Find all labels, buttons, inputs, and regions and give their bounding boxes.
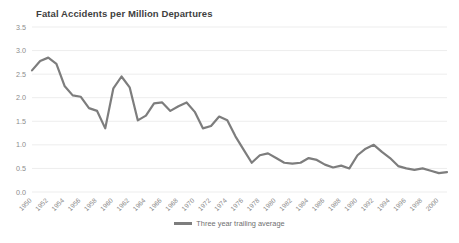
svg-text:1990: 1990 [343, 197, 359, 213]
svg-text:0.5: 0.5 [16, 164, 26, 173]
legend-swatch-icon [174, 222, 192, 225]
svg-text:1952: 1952 [34, 197, 50, 213]
svg-text:1962: 1962 [115, 197, 131, 213]
svg-text:1964: 1964 [131, 197, 147, 213]
x-axis-tick-labels: 1950195219541956195819601962196419661968… [17, 197, 439, 213]
svg-text:1966: 1966 [148, 197, 164, 213]
svg-text:3.0: 3.0 [16, 46, 26, 55]
chart-container: Fatal Accidents per Million Departures 0… [0, 0, 459, 243]
y-axis-tick-labels: 0.00.51.01.52.02.53.03.5 [16, 23, 26, 197]
svg-text:1998: 1998 [408, 197, 424, 213]
svg-text:2.0: 2.0 [16, 93, 26, 102]
svg-text:2000: 2000 [424, 197, 440, 213]
svg-text:1958: 1958 [82, 197, 98, 213]
svg-text:1978: 1978 [245, 197, 261, 213]
svg-text:1974: 1974 [213, 197, 229, 213]
svg-text:1994: 1994 [375, 197, 391, 213]
svg-text:0.0: 0.0 [16, 188, 26, 197]
svg-text:1976: 1976 [229, 197, 245, 213]
svg-text:1954: 1954 [50, 197, 66, 213]
svg-text:1986: 1986 [310, 197, 326, 213]
svg-text:1988: 1988 [327, 197, 343, 213]
svg-text:1960: 1960 [99, 197, 115, 213]
svg-text:1956: 1956 [66, 197, 82, 213]
svg-text:1996: 1996 [392, 197, 408, 213]
svg-text:1.0: 1.0 [16, 140, 26, 149]
svg-text:1972: 1972 [196, 197, 212, 213]
svg-text:1982: 1982 [278, 197, 294, 213]
svg-text:1.5: 1.5 [16, 117, 26, 126]
svg-text:1970: 1970 [180, 197, 196, 213]
svg-text:2.5: 2.5 [16, 70, 26, 79]
svg-text:1968: 1968 [164, 197, 180, 213]
legend-label: Three year trailing average [196, 219, 284, 228]
chart-plot-area: 0.00.51.01.52.02.53.03.5 195019521954195… [0, 0, 459, 243]
svg-text:1992: 1992 [359, 197, 375, 213]
chart-legend: Three year trailing average [0, 219, 459, 228]
svg-text:3.5: 3.5 [16, 23, 26, 32]
data-line-three-year-trailing-average [32, 58, 447, 174]
svg-text:1980: 1980 [262, 197, 278, 213]
svg-text:1984: 1984 [294, 197, 310, 213]
svg-text:1950: 1950 [17, 197, 33, 213]
